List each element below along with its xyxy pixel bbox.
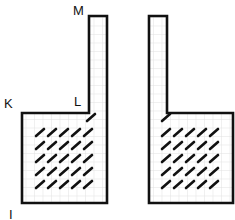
label-k: K (4, 97, 13, 110)
right-vessel (149, 16, 233, 203)
vessel-diagram (0, 0, 235, 220)
label-i: I (9, 208, 13, 220)
label-l: L (74, 95, 81, 108)
left-vessel (22, 16, 107, 203)
label-m: M (73, 4, 84, 17)
